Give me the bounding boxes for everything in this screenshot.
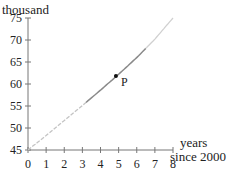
y-tick-label: 65 <box>10 55 22 69</box>
x-tick-label: 7 <box>152 157 158 171</box>
chart: thousand 45505560657075 012345678 years … <box>0 0 228 173</box>
point-label: P <box>121 75 128 89</box>
x-tick-label: 4 <box>98 157 104 171</box>
x-tick-label: 2 <box>61 157 67 171</box>
y-tick-label: 55 <box>10 99 22 113</box>
curve-faded-end <box>146 18 173 48</box>
curve-faded-start <box>28 103 86 151</box>
annotations: P <box>114 74 128 89</box>
x-axis-label-line2: since 2000 <box>170 149 226 164</box>
y-tick-label: 50 <box>10 121 22 135</box>
x-tick-label: 5 <box>116 157 122 171</box>
y-tick-label: 60 <box>10 77 22 91</box>
point-marker <box>114 74 118 78</box>
x-tick-label: 0 <box>25 157 31 171</box>
x-tick-label: 1 <box>43 157 49 171</box>
x-tick-label: 3 <box>79 157 85 171</box>
x-ticks: 012345678 <box>25 147 176 171</box>
x-tick-label: 6 <box>134 157 140 171</box>
x-axis-label-line1: years <box>180 135 207 150</box>
y-tick-label: 75 <box>10 11 22 25</box>
data-curve <box>28 18 173 150</box>
y-tick-label: 45 <box>10 143 22 157</box>
y-tick-label: 70 <box>10 33 22 47</box>
